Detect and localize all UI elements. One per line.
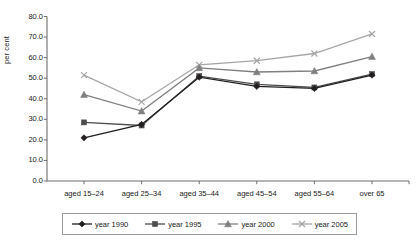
x-tick-label: over 65 (359, 189, 384, 198)
data-point-square (153, 222, 158, 227)
legend-label: year 2000 (241, 220, 274, 229)
x-tick-label: aged 35–44 (179, 189, 219, 198)
data-point-diamond (79, 221, 85, 227)
legend-item: year 2000 (217, 219, 274, 229)
legend-label: year 2005 (315, 220, 348, 229)
x-tick-label: aged 55–64 (295, 189, 335, 198)
x-tick-label: aged 45–54 (237, 189, 277, 198)
legend-swatch-triangle-icon (217, 219, 239, 229)
legend-swatch-cross-icon (291, 219, 313, 229)
x-axis-tick-labels: aged 15–24aged 25–34aged 35–44aged 45–54… (0, 0, 419, 248)
line-chart: per cent 80.070.060.050.040.030.020.010.… (0, 0, 419, 248)
legend-label: year 1995 (168, 220, 201, 229)
x-tick-label: aged 25–34 (122, 189, 162, 198)
legend-item: year 2005 (291, 219, 348, 229)
legend-item: year 1990 (71, 219, 128, 229)
legend-swatch-square-icon (144, 219, 166, 229)
chart-legend: year 1990year 1995year 2000year 2005 (62, 213, 357, 235)
x-tick-label: aged 15–24 (64, 189, 104, 198)
legend-item: year 1995 (144, 219, 201, 229)
legend-swatch-diamond-icon (71, 219, 93, 229)
legend-label: year 1990 (95, 220, 128, 229)
